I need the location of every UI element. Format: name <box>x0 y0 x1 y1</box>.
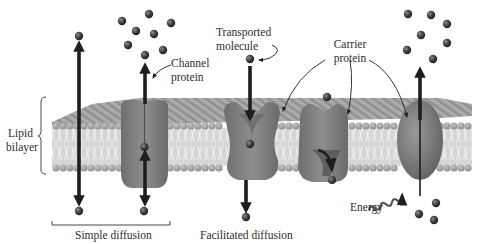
channel-protein-label-line2: protein <box>171 71 209 83</box>
carrier-protein-2 <box>298 104 348 184</box>
carrier-protein-label-line2: protein <box>328 52 372 64</box>
energy-label: Energy <box>350 201 383 213</box>
lipid-bilayer-label-line1: Lipid <box>6 127 38 139</box>
transported-molecule-label: Transported molecule <box>216 26 271 52</box>
channel-protein-label-line1: Channel <box>171 57 209 69</box>
lipid-bilayer-label-line2: bilayer <box>6 141 38 153</box>
transported-molecule-label-line1: Transported <box>216 26 271 38</box>
carrier-protein-label: Carrier protein <box>328 38 372 64</box>
simple-diffusion-bracket <box>52 221 170 225</box>
transported-molecule-label-line2: molecule <box>216 40 271 52</box>
facilitated-diffusion-label: Facilitated diffusion <box>200 229 293 241</box>
lipid-bilayer-brace <box>38 97 46 174</box>
channel-protein-label: Channel protein <box>171 57 209 83</box>
carrier-protein-label-line1: Carrier <box>328 38 372 50</box>
simple-diffusion-label: Simple diffusion <box>75 229 152 241</box>
lipid-bilayer-label: Lipid bilayer <box>6 127 38 153</box>
membrane-transport-diagram: Lipid bilayer Channel protein Transporte… <box>0 0 492 244</box>
